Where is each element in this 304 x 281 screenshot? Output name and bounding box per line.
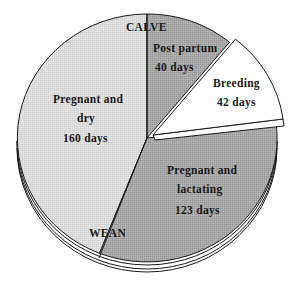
dry-value: 160 days bbox=[63, 132, 108, 145]
wean-label: WEAN bbox=[89, 227, 126, 239]
dry-label-1: Pregnant and bbox=[53, 93, 123, 106]
breeding-value: 42 days bbox=[217, 96, 256, 109]
lactating-value: 123 days bbox=[175, 204, 220, 217]
post-partum-value: 40 days bbox=[155, 61, 194, 74]
lactating-label-1: Pregnant and bbox=[167, 164, 237, 177]
breeding-label: Breeding bbox=[213, 77, 260, 90]
calve-label: CALVE bbox=[126, 21, 167, 33]
dry-label-2: dry bbox=[77, 112, 95, 125]
post-partum-label: Post partum bbox=[153, 42, 217, 55]
lactating-label-2: lactating bbox=[177, 183, 223, 196]
pie-chart: CALVE WEAN Post partum 40 days Breeding … bbox=[0, 0, 304, 281]
